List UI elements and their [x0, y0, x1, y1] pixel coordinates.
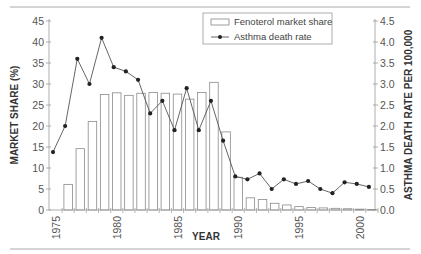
y-tick-label: 20	[32, 120, 44, 132]
y2-tick-label: 3.5	[380, 57, 395, 69]
y2-tick-label: 2.0	[380, 120, 395, 132]
y-axis-title: MARKET SHARE (%)	[9, 66, 20, 165]
death-rate-marker	[294, 182, 298, 186]
y2-tick-label: 0.0	[380, 204, 395, 216]
death-rate-marker	[87, 82, 91, 86]
legend: Fenoterol market share Asthma death rate	[203, 13, 332, 44]
x-tick-label: 1985	[172, 216, 184, 240]
death-rate-marker	[306, 179, 310, 183]
market-share-bar	[76, 149, 85, 210]
death-rate-marker	[245, 177, 249, 181]
x-tick-label: 2000	[354, 216, 366, 240]
x-tick-label: 1980	[111, 216, 123, 240]
market-share-bar	[258, 200, 267, 211]
market-share-bar	[88, 121, 97, 210]
y-tick-label: 5	[38, 183, 44, 195]
market-share-bar	[125, 95, 133, 210]
market-share-bar	[283, 205, 292, 210]
market-share-bar	[113, 93, 122, 210]
death-rate-marker	[172, 128, 176, 132]
death-rate-marker	[124, 69, 128, 73]
y2-axis-title: ASTHMA DEATH RATE PER 100,000	[403, 29, 414, 200]
y2-tick-label: 4.0	[380, 36, 395, 48]
market-share-bar	[270, 203, 279, 210]
chart: 0510152025303540450.00.51.01.52.02.53.03…	[0, 0, 421, 254]
y2-tick-label: 1.0	[380, 162, 395, 174]
y2-tick-label: 4.5	[380, 15, 395, 27]
y-tick-label: 25	[32, 99, 44, 111]
death-rate-marker	[318, 187, 322, 191]
y-tick-label: 40	[32, 36, 44, 48]
y-tick-label: 30	[32, 78, 44, 90]
death-rate-marker	[148, 111, 152, 115]
death-rate-marker	[100, 36, 104, 40]
market-share-bars	[64, 82, 376, 210]
legend-label-death-rate: Asthma death rate	[234, 31, 312, 42]
death-rate-marker	[270, 187, 274, 191]
market-share-bar	[198, 92, 207, 210]
market-share-bar	[64, 184, 73, 210]
death-rate-marker	[63, 124, 67, 128]
death-rate-marker	[160, 99, 164, 103]
market-share-bar	[222, 132, 231, 210]
market-share-bar	[173, 94, 182, 210]
death-rate-marker	[75, 57, 79, 61]
y-tick-label: 45	[32, 15, 44, 27]
death-rate-marker	[330, 191, 334, 195]
market-share-bar	[246, 198, 255, 210]
y-tick-label: 0	[38, 204, 44, 216]
y2-tick-label: 1.5	[380, 141, 395, 153]
death-rate-marker	[367, 185, 371, 189]
x-axis-title: YEAR	[192, 231, 221, 242]
y2-tick-label: 3.0	[380, 78, 395, 90]
death-rate-marker	[209, 99, 213, 103]
market-share-bar	[161, 93, 170, 210]
death-rate-marker	[282, 177, 286, 181]
death-rate-marker	[343, 180, 347, 184]
x-tick-label: 1975	[50, 216, 62, 240]
x-tick-label: 1990	[232, 216, 244, 240]
y2-tick-label: 2.5	[380, 99, 395, 111]
death-rate-marker	[355, 182, 359, 186]
legend-marker-icon	[218, 35, 222, 39]
market-share-bar	[137, 93, 146, 210]
y-tick-label: 35	[32, 57, 44, 69]
x-tick-label: 1995	[293, 216, 305, 240]
market-share-bar	[185, 99, 194, 210]
death-rate-marker	[112, 65, 116, 69]
death-rate-marker	[221, 139, 225, 143]
market-share-bar	[234, 177, 243, 210]
y-tick-label: 15	[32, 141, 44, 153]
market-share-bar	[295, 207, 304, 210]
y2-tick-label: 0.5	[380, 183, 395, 195]
death-rate-marker	[136, 78, 140, 82]
death-rate-marker	[197, 128, 201, 132]
death-rate-marker	[257, 171, 261, 175]
death-rate-marker	[51, 150, 55, 154]
legend-label-market-share: Fenoterol market share	[234, 16, 332, 27]
legend-bar-swatch-icon	[211, 19, 229, 25]
market-share-bar	[100, 95, 109, 211]
death-rate-marker	[185, 86, 189, 90]
y-tick-label: 10	[32, 162, 44, 174]
death-rate-marker	[233, 174, 237, 178]
